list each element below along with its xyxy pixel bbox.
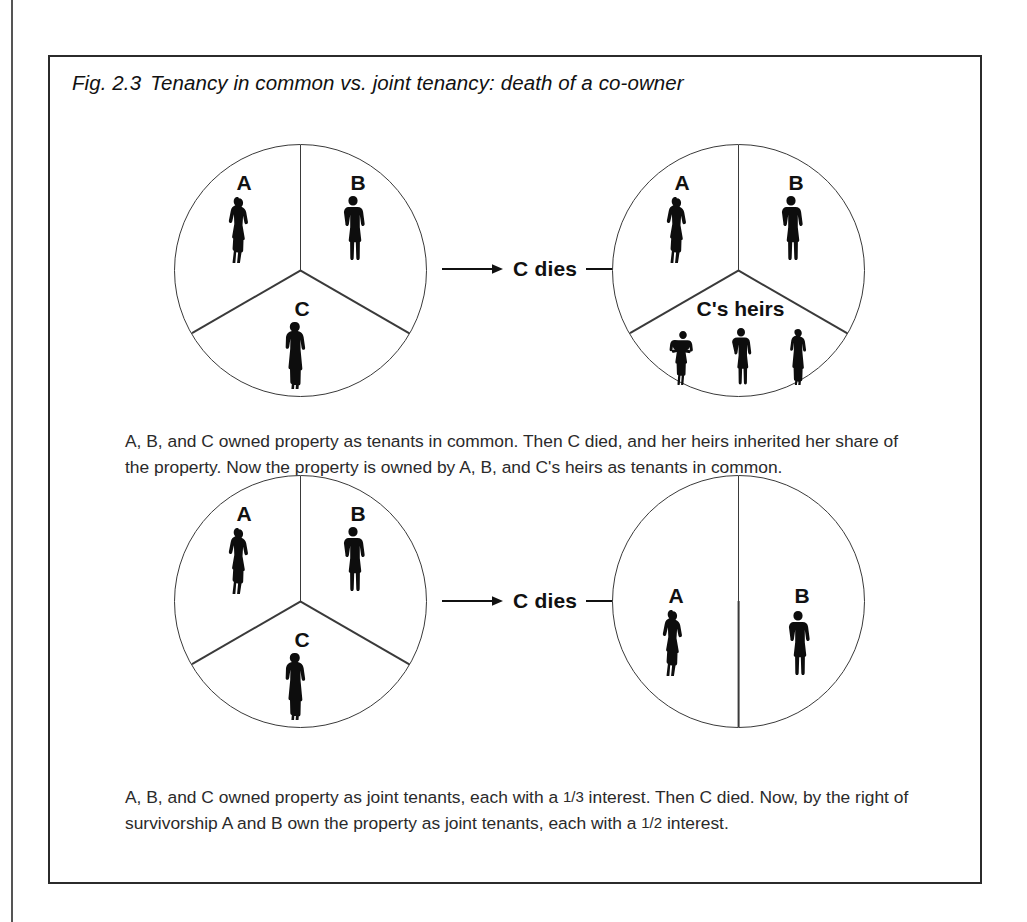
- pie-tenancy-in-common-before: A B C: [174, 144, 427, 397]
- slice-divider-top: [300, 145, 302, 271]
- arrow-right-icon: [442, 593, 504, 609]
- man-suit-silhouette: [338, 195, 368, 267]
- woman-crossed-arms-silhouette: [669, 330, 697, 385]
- slice-divider-top: [738, 145, 740, 271]
- pie-joint-tenancy-after: A B: [612, 475, 865, 728]
- woman-walking-silhouette: [223, 528, 253, 598]
- slice-label-b: B: [779, 171, 813, 195]
- woman-coat-silhouette: [280, 321, 310, 393]
- slice-label-b: B: [341, 171, 375, 195]
- panel-tenancy-in-common: A B C: [50, 89, 984, 479]
- slice-label-a: A: [227, 502, 261, 526]
- man-suit-silhouette: [776, 195, 806, 267]
- slice-label-c: C: [285, 297, 319, 321]
- woman-coat-silhouette: [280, 652, 310, 724]
- slice-label-a: A: [227, 171, 261, 195]
- slice-label-b: B: [341, 502, 375, 526]
- fraction-one-third: 1/3: [563, 786, 584, 808]
- woman-walking-silhouette: [661, 197, 691, 267]
- slice-label-a: A: [665, 171, 699, 195]
- man-suit-silhouette: [783, 610, 813, 682]
- slice-label-a: A: [659, 584, 693, 608]
- diagram-row-tenancy-in-common: A B C: [50, 89, 984, 389]
- arrow-right-icon: [442, 261, 504, 277]
- caption-joint-tenancy: A, B, and C owned property as joint tena…: [125, 785, 915, 836]
- page-edge-line: [11, 0, 13, 922]
- slice-label-b: B: [785, 584, 819, 608]
- slice-divider-top: [738, 476, 740, 602]
- man-suit-silhouette: [726, 327, 756, 385]
- fraction-one-half: 1/2: [641, 812, 662, 834]
- transition-label: C dies: [513, 589, 577, 613]
- three-heirs-silhouettes: [669, 327, 811, 385]
- woman-walking-silhouette: [223, 197, 253, 267]
- slice-label-heirs: C's heirs: [663, 297, 818, 321]
- caption-part-3: interest.: [662, 813, 729, 833]
- woman-long-dress-silhouette: [785, 328, 811, 385]
- man-suit-silhouette: [338, 526, 368, 598]
- figure-frame: Fig. 2.3Tenancy in common vs. joint tena…: [48, 55, 982, 884]
- pie-tenancy-in-common-after: A B C's heirs: [612, 144, 865, 397]
- caption-part-1: A, B, and C owned property as joint tena…: [125, 787, 563, 807]
- slice-label-c: C: [285, 628, 319, 652]
- slice-divider-bottom: [738, 602, 740, 728]
- pie-joint-tenancy-before: A B C: [174, 475, 427, 728]
- transition-label: C dies: [513, 257, 577, 281]
- woman-walking-silhouette: [657, 610, 687, 680]
- panel-joint-tenancy: A B C: [50, 467, 984, 877]
- diagram-row-joint-tenancy: A B C: [50, 467, 984, 767]
- slice-divider-top: [300, 476, 302, 602]
